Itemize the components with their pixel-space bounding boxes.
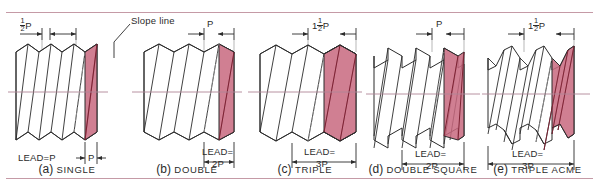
panel-triple-acme: 112P — [482, 12, 593, 178]
lead-label-double-square: LEAD= — [415, 148, 446, 159]
panel-double: P — [128, 12, 246, 178]
caption-triple-acme: (e) TRIPLE ACME — [482, 162, 593, 176]
dim-top-single: 12P — [20, 18, 32, 33]
dim-top-triple-acme: 112P — [528, 18, 545, 33]
panel-double-square: P — [364, 12, 482, 178]
caption-double: (b) DOUBLE — [128, 162, 246, 176]
dim-top-double-square: P — [436, 18, 443, 29]
caption-triple: (c) TRIPLE — [246, 162, 364, 176]
panel-triple: 112P — [246, 12, 364, 178]
frame-rule-bottom — [6, 178, 593, 179]
dim-top-triple: 112P — [312, 18, 329, 33]
lead-label-triple-acme: LEAD= — [512, 148, 543, 159]
caption-single: (a) SINGLE — [6, 162, 128, 176]
lead-label-double: LEAD= — [202, 146, 233, 157]
caption-double-square: (d) DOUBLE SQUARE — [364, 162, 482, 176]
dim-top-double: P — [207, 18, 214, 29]
figure-sheet: 12P — [0, 0, 599, 191]
lead-label-triple: LEAD= — [304, 146, 335, 157]
